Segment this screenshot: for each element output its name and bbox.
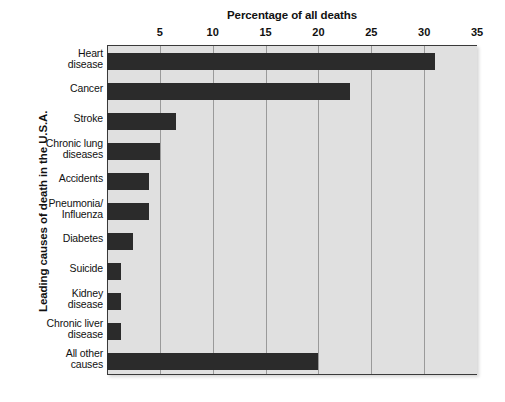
chart-title: Percentage of all deaths xyxy=(107,9,477,21)
bar xyxy=(107,83,350,100)
x-tick-20: 20 xyxy=(312,26,324,38)
bar-row xyxy=(107,233,477,250)
bar xyxy=(107,323,121,340)
category-label-line: Influenza xyxy=(0,209,103,221)
category-label-line: disease xyxy=(0,59,103,71)
category-label: All othercauses xyxy=(0,348,103,371)
bar-row xyxy=(107,173,477,190)
bar-row xyxy=(107,203,477,220)
category-label: Accidents xyxy=(0,173,103,185)
x-tick-30: 30 xyxy=(418,26,430,38)
x-tick-15: 15 xyxy=(259,26,271,38)
bar-row xyxy=(107,263,477,280)
bar xyxy=(107,203,149,220)
x-tick-35: 35 xyxy=(471,26,483,38)
x-tick-10: 10 xyxy=(207,26,219,38)
bars-container xyxy=(107,46,477,374)
category-label: Kidneydisease xyxy=(0,288,103,311)
bar-row xyxy=(107,113,477,130)
category-label: Stroke xyxy=(0,113,103,125)
category-label-line: disease xyxy=(0,329,103,341)
category-label: Chronic liverdisease xyxy=(0,318,103,341)
x-tick-25: 25 xyxy=(365,26,377,38)
bar xyxy=(107,173,149,190)
bar-row xyxy=(107,53,477,70)
category-label: Pneumonia/Influenza xyxy=(0,198,103,221)
category-label: Heartdisease xyxy=(0,48,103,71)
bar xyxy=(107,143,160,160)
category-label-line: causes xyxy=(0,359,103,371)
bar xyxy=(107,53,435,70)
x-axis-tick-labels: 5101520253035 xyxy=(107,26,477,42)
category-label-line: Accidents xyxy=(0,173,103,185)
bar xyxy=(107,113,176,130)
bar-row xyxy=(107,293,477,310)
bar-row xyxy=(107,83,477,100)
category-label: Suicide xyxy=(0,263,103,275)
category-label: Chronic lungdiseases xyxy=(0,138,103,161)
bar xyxy=(107,233,133,250)
bar xyxy=(107,293,121,310)
bar-row xyxy=(107,323,477,340)
category-labels: HeartdiseaseCancerStrokeChronic lungdise… xyxy=(0,45,103,375)
category-label-line: Stroke xyxy=(0,113,103,125)
bar-row xyxy=(107,353,477,370)
bar xyxy=(107,263,121,280)
plot-area xyxy=(107,45,477,375)
x-tick-5: 5 xyxy=(157,26,163,38)
category-label: Diabetes xyxy=(0,233,103,245)
bar-row xyxy=(107,143,477,160)
category-label-line: Cancer xyxy=(0,83,103,95)
category-label-line: Diabetes xyxy=(0,233,103,245)
category-label-line: disease xyxy=(0,299,103,311)
category-label-line: Suicide xyxy=(0,263,103,275)
category-label: Cancer xyxy=(0,83,103,95)
bar xyxy=(107,353,318,370)
category-label-line: diseases xyxy=(0,149,103,161)
bar-chart-figure: Percentage of all deaths Leading causes … xyxy=(0,0,505,402)
